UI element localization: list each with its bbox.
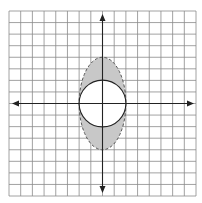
arrow-down-icon bbox=[100, 186, 106, 193]
arrow-right-icon bbox=[187, 101, 194, 107]
arrow-left-icon bbox=[12, 101, 19, 107]
arrow-up-icon bbox=[100, 14, 106, 21]
axes bbox=[12, 14, 194, 193]
coordinate-plane-figure bbox=[0, 0, 202, 203]
